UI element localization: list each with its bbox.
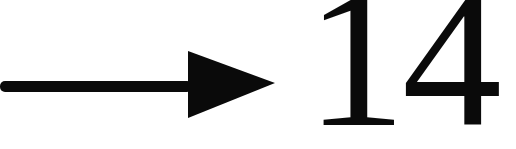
number-label: 14: [306, 0, 498, 149]
right-arrow-icon: [0, 0, 290, 149]
